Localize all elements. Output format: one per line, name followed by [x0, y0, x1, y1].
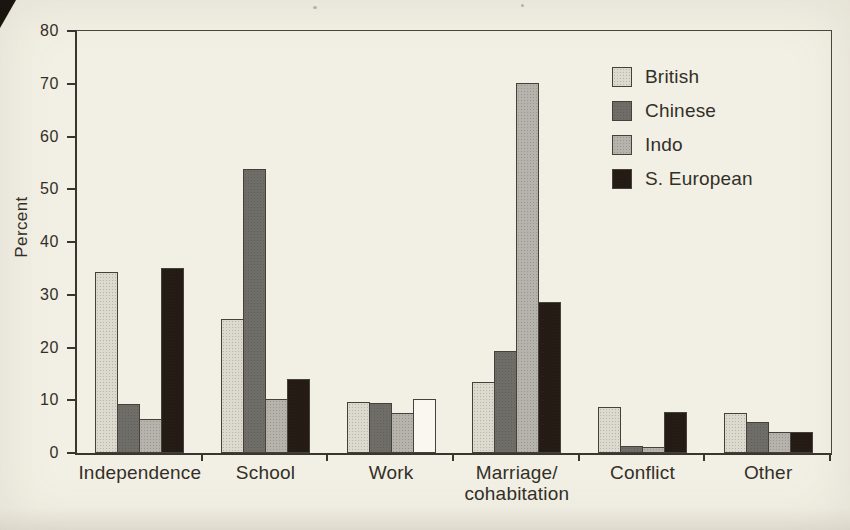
x-axis-tick	[452, 453, 454, 461]
y-tick	[67, 188, 76, 190]
category-label-line: Work	[328, 462, 454, 483]
y-tick	[67, 241, 76, 243]
y-tick	[67, 30, 76, 32]
category-label-line: Independence	[77, 462, 203, 483]
category-label-line: School	[203, 462, 329, 483]
bar-chinese-marriage	[494, 351, 517, 453]
scan-speck	[313, 6, 317, 9]
category-label-work: Work	[328, 462, 454, 483]
legend-item-chinese: Chinese	[612, 100, 753, 122]
bar-british-work	[347, 402, 370, 453]
category-label-line: Other	[705, 462, 831, 483]
scan-artifact-corner	[0, 0, 16, 28]
legend-item-s-european: S. European	[612, 168, 753, 190]
y-tick	[67, 399, 76, 401]
bar-indo-conflict	[642, 447, 665, 453]
y-tick-label: 40	[15, 233, 59, 251]
legend-label-s-european: S. European	[645, 168, 753, 190]
legend-label-british: British	[645, 66, 699, 88]
legend-label-indo: Indo	[645, 134, 683, 156]
y-axis-title: Percent	[12, 147, 32, 307]
y-tick-label: 20	[15, 339, 59, 357]
legend: BritishChineseIndoS. European	[612, 66, 753, 202]
legend-item-british: British	[612, 66, 753, 88]
category-label-conflict: Conflict	[580, 462, 706, 483]
legend-swatch-indo	[612, 135, 632, 155]
x-axis-tick	[326, 453, 328, 461]
bar-group-independence	[77, 31, 203, 453]
legend-item-indo: Indo	[612, 134, 753, 156]
x-axis-tick	[201, 453, 203, 461]
scanned-chart-page: Percent 01020304050607080IndependenceSch…	[0, 0, 850, 530]
bar-chinese-work	[369, 403, 392, 453]
legend-label-chinese: Chinese	[645, 100, 716, 122]
x-axis-tick	[578, 453, 580, 461]
bar-s-european-marriage	[538, 302, 561, 453]
bar-british-independence	[95, 272, 118, 453]
bar-chinese-independence	[117, 404, 140, 453]
bar-british-marriage	[472, 382, 495, 453]
x-axis-tick	[829, 453, 831, 461]
bar-s-european-conflict	[664, 412, 687, 453]
bar-indo-independence	[139, 419, 162, 453]
y-tick	[67, 136, 76, 138]
y-tick	[67, 452, 76, 454]
y-tick-label: 10	[15, 391, 59, 409]
bar-s-european-independence	[161, 268, 184, 453]
y-tick	[67, 83, 76, 85]
bar-s-european-other	[790, 432, 813, 453]
category-label-line: Marriage/	[454, 462, 580, 483]
bar-group-school	[203, 31, 329, 453]
y-tick-label: 60	[15, 128, 59, 146]
scan-speck	[521, 4, 524, 7]
y-tick-label: 50	[15, 180, 59, 198]
category-label-line: cohabitation	[454, 483, 580, 504]
x-axis-tick	[703, 453, 705, 461]
bar-british-conflict	[598, 407, 621, 453]
category-label-line: Conflict	[580, 462, 706, 483]
legend-swatch-chinese	[612, 101, 632, 121]
bar-indo-work	[391, 413, 414, 453]
bar-british-other	[724, 413, 747, 453]
legend-swatch-s-european	[612, 169, 632, 189]
legend-swatch-british	[612, 67, 632, 87]
bar-group-marriage	[454, 31, 580, 453]
y-tick-label: 0	[15, 444, 59, 462]
bar-indo-school	[265, 399, 288, 453]
bar-chinese-other	[746, 422, 769, 453]
category-label-school: School	[203, 462, 329, 483]
bar-chinese-conflict	[620, 446, 643, 453]
y-tick	[67, 294, 76, 296]
bar-indo-other	[768, 432, 791, 453]
bar-indo-marriage	[516, 83, 539, 453]
bar-chinese-school	[243, 169, 266, 453]
bar-s-european-work	[413, 399, 436, 453]
bar-group-work	[328, 31, 454, 453]
y-tick-label: 30	[15, 286, 59, 304]
category-label-independence: Independence	[77, 462, 203, 483]
y-tick	[67, 347, 76, 349]
bar-s-european-school	[287, 379, 310, 453]
bar-british-school	[221, 319, 244, 454]
y-tick-label: 80	[15, 22, 59, 40]
y-tick-label: 70	[15, 75, 59, 93]
category-label-marriage: Marriage/cohabitation	[454, 462, 580, 504]
category-label-other: Other	[705, 462, 831, 483]
